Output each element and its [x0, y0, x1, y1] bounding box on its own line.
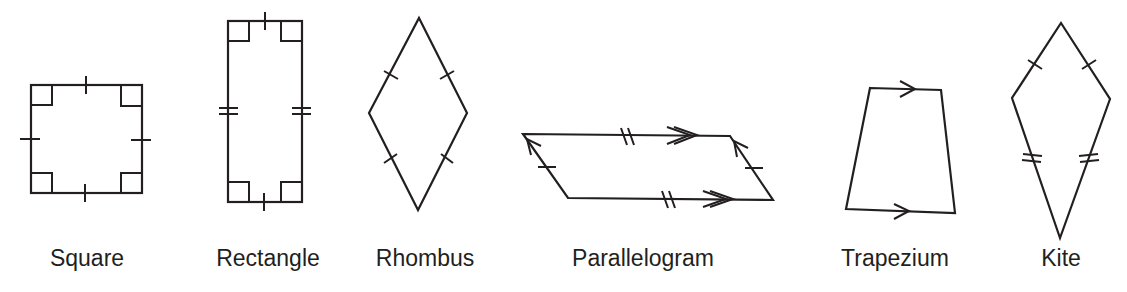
- right-angle-markers: [31, 85, 142, 193]
- parallel-arrows: [894, 81, 915, 219]
- kite-shape: [1012, 23, 1110, 238]
- rectangle-shape: [219, 12, 311, 211]
- equal-side-ticks: [20, 76, 151, 202]
- rectangle-label: Rectangle: [216, 245, 320, 272]
- kite-label: Kite: [1041, 245, 1081, 272]
- trapezium-shape: [846, 81, 955, 219]
- parallelogram-label: Parallelogram: [572, 245, 714, 272]
- rhombus-label: Rhombus: [376, 245, 474, 272]
- equal-side-ticks: [1022, 60, 1099, 162]
- rhombus-shape: [369, 18, 467, 210]
- parallelogram-shape: [523, 127, 773, 208]
- equal-side-ticks: [384, 71, 454, 163]
- square-shape: [20, 76, 151, 202]
- right-angle-markers: [228, 21, 302, 202]
- trapezium-label: Trapezium: [841, 245, 949, 272]
- parallel-arrows-and-ticks: [527, 127, 763, 208]
- quadrilaterals-diagram: [0, 0, 1127, 292]
- square-label: Square: [50, 245, 124, 272]
